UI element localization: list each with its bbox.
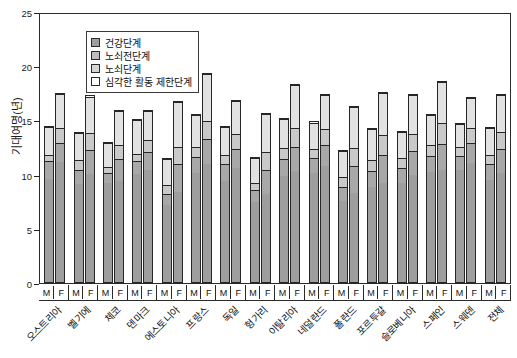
sex-tick-group: MF (452, 285, 482, 300)
x-tick-label: 스페인 (418, 302, 448, 332)
bar-segment (497, 173, 505, 282)
stacked-bar[interactable] (44, 126, 54, 283)
bar-segment (192, 173, 200, 282)
bar-segment (291, 128, 299, 147)
bar-segment (368, 171, 376, 187)
stacked-bar[interactable] (114, 110, 124, 283)
bar-segment (339, 177, 347, 187)
bar-segment (291, 85, 299, 128)
bar-segment (75, 170, 83, 184)
country-label-slot: 네덜란드 (305, 300, 335, 358)
bar-segment (115, 145, 123, 159)
bar-segment (144, 111, 152, 140)
y-tick-label: 20 (4, 62, 32, 73)
bar-segment (409, 134, 417, 151)
stacked-bar[interactable] (485, 127, 495, 283)
bar-segment (45, 127, 53, 155)
bar-segment (368, 129, 376, 160)
stacked-bar[interactable] (261, 113, 271, 283)
bar-segment (133, 161, 141, 174)
bar-segment (350, 166, 358, 193)
bar-segment (339, 201, 347, 282)
bar-segment (115, 159, 123, 182)
x-tick-label: 프랑스 (182, 302, 212, 332)
bar-segment (350, 148, 358, 166)
y-tick-label: 0 (4, 279, 32, 290)
sex-tick-group: MF (69, 285, 99, 300)
stacked-bar[interactable] (250, 157, 260, 283)
bar-segment (438, 123, 446, 143)
stacked-bar[interactable] (466, 97, 476, 283)
stacked-bar[interactable] (378, 92, 388, 283)
bar-segment (144, 152, 152, 169)
legend-swatch-icon (91, 38, 100, 47)
stacked-bar[interactable] (408, 94, 418, 283)
bar-segment (221, 164, 229, 181)
stacked-bar[interactable] (496, 94, 506, 283)
bar-segment (379, 155, 387, 183)
bar-segment (497, 95, 505, 131)
bar-segment (144, 170, 152, 283)
stacked-bar[interactable] (309, 121, 319, 283)
bar-segment (104, 143, 112, 167)
bar-segment (192, 147, 200, 157)
country-label-slot: 스웨덴 (452, 300, 482, 358)
sex-tick-label: M (423, 285, 438, 300)
bar-segment (291, 171, 299, 282)
stacked-bar[interactable] (231, 100, 241, 283)
sex-tick-group: MF (39, 285, 69, 300)
stacked-bar[interactable] (85, 95, 95, 283)
stacked-bar[interactable] (426, 114, 436, 283)
sex-tick-label: M (157, 285, 172, 300)
country-label-slot: 독일 (216, 300, 246, 358)
x-axis-country-labels: 오스트리아벨기에체코덴마크에스토니아프랑스독일헝가리이탈리아네덜란드폴란드포르투… (39, 300, 511, 358)
x-tick-label: 전체 (484, 302, 507, 325)
stacked-bar[interactable] (191, 114, 201, 283)
bar-segment (75, 160, 83, 170)
sex-tick-label: M (128, 285, 143, 300)
stacked-bar[interactable] (349, 106, 359, 283)
bar-segment (467, 143, 475, 163)
stacked-bar[interactable] (367, 128, 377, 283)
stacked-bar[interactable] (279, 118, 289, 283)
bar-segment (280, 159, 288, 176)
country-label-slot: 전체 (482, 300, 512, 358)
stacked-bar[interactable] (220, 126, 230, 283)
bar-segment (56, 162, 64, 282)
stacked-bar[interactable] (397, 131, 407, 283)
y-axis-ticks: 0510152025 (0, 0, 40, 358)
bar-segment (398, 168, 406, 183)
sex-tick-group: MF (275, 285, 305, 300)
stacked-bar[interactable] (173, 101, 183, 283)
sex-tick-group: MF (216, 285, 246, 300)
stacked-bar[interactable] (320, 94, 330, 283)
stacked-bar[interactable] (103, 142, 113, 283)
bar-segment (192, 157, 200, 173)
stacked-bar[interactable] (55, 93, 65, 283)
bar-segment (262, 114, 270, 153)
bar-segment (115, 181, 123, 282)
stacked-bar[interactable] (74, 132, 84, 283)
bar-segment (232, 168, 240, 282)
bar-segment (486, 164, 494, 180)
bar-segment (379, 93, 387, 135)
sex-tick-label: M (275, 285, 290, 300)
stacked-bar[interactable] (437, 81, 447, 283)
bar-segment (262, 194, 270, 282)
stacked-bar[interactable] (338, 150, 348, 283)
bar-segment (174, 147, 182, 164)
sex-tick-group: MF (128, 285, 158, 300)
stacked-bar[interactable] (162, 158, 172, 283)
stacked-bar[interactable] (290, 84, 300, 283)
sex-tick-label: M (187, 285, 202, 300)
legend-swatch-icon (91, 64, 100, 73)
bar-segment (467, 128, 475, 143)
plot-area: 건강단계노쇠전단계노쇠단계심각한 활동 제한단계 (39, 13, 511, 284)
stacked-bar[interactable] (132, 119, 142, 283)
sex-tick-label: F (378, 285, 393, 300)
stacked-bar[interactable] (455, 123, 465, 283)
bar-segment (368, 160, 376, 171)
stacked-bar[interactable] (143, 110, 153, 283)
bar-group (422, 14, 451, 283)
stacked-bar[interactable] (202, 73, 212, 283)
